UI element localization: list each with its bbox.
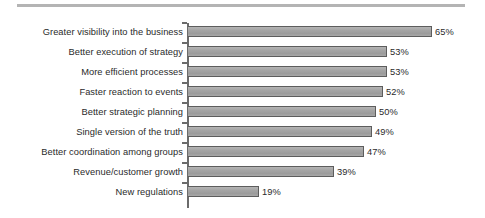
category-label: Better execution of strategy xyxy=(68,47,183,58)
bar xyxy=(188,46,387,57)
bar-value-label: 49% xyxy=(375,127,394,138)
bar-row: Better execution of strategy 53% xyxy=(0,42,485,62)
bar xyxy=(188,106,376,117)
bar-track xyxy=(188,26,432,37)
category-label: Greater visibility into the business xyxy=(43,27,183,38)
bar-value-label: 53% xyxy=(390,67,409,78)
bar xyxy=(188,26,432,37)
bar-track xyxy=(188,126,372,137)
bar-value-label: 52% xyxy=(386,87,405,98)
bar-track xyxy=(188,66,387,77)
bar xyxy=(188,66,387,77)
bar-value-label: 39% xyxy=(337,167,356,178)
axis-tick xyxy=(182,22,187,24)
bar-track xyxy=(188,186,259,197)
axis-tick xyxy=(182,62,187,64)
category-label: More efficient processes xyxy=(81,67,183,78)
bar-row: Revenue/customer growth 39% xyxy=(0,162,485,182)
category-label: Revenue/customer growth xyxy=(73,167,183,178)
axis-tick xyxy=(182,122,187,124)
axis-tick xyxy=(182,42,187,44)
bar-row: Better coordination among groups 47% xyxy=(0,142,485,162)
scan-artifact-rule xyxy=(17,4,465,7)
plot-area: Greater visibility into the business 65%… xyxy=(0,22,485,212)
bar xyxy=(188,86,383,97)
bar-track xyxy=(188,106,376,117)
horizontal-bar-chart: Greater visibility into the business 65%… xyxy=(0,0,485,218)
category-label: Single version of the truth xyxy=(76,127,183,138)
bar-row: More efficient processes 53% xyxy=(0,62,485,82)
bar-value-label: 47% xyxy=(367,147,386,158)
category-label: Faster reaction to events xyxy=(79,87,183,98)
bar-track xyxy=(188,146,364,157)
bar-track xyxy=(188,166,334,177)
bar-track xyxy=(188,46,387,57)
bar-row: New regulations 19% xyxy=(0,182,485,202)
bar xyxy=(188,186,259,197)
bar-row: Greater visibility into the business 65% xyxy=(0,22,485,42)
category-label: New regulations xyxy=(116,187,183,198)
bar-row: Faster reaction to events 52% xyxy=(0,82,485,102)
category-label: Better coordination among groups xyxy=(41,147,183,158)
bar xyxy=(188,146,364,157)
bar-track xyxy=(188,86,383,97)
axis-tick xyxy=(182,82,187,84)
axis-tick xyxy=(182,182,187,184)
bar-value-label: 53% xyxy=(390,47,409,58)
axis-tick xyxy=(182,102,187,104)
axis-tick xyxy=(182,142,187,144)
bar-value-label: 65% xyxy=(435,27,454,38)
bar xyxy=(188,166,334,177)
axis-tick xyxy=(182,162,187,164)
category-label: Better strategic planning xyxy=(81,107,183,118)
bar xyxy=(188,126,372,137)
bar-row: Better strategic planning 50% xyxy=(0,102,485,122)
bar-value-label: 50% xyxy=(379,107,398,118)
bar-value-label: 19% xyxy=(262,187,281,198)
bar-row: Single version of the truth 49% xyxy=(0,122,485,142)
